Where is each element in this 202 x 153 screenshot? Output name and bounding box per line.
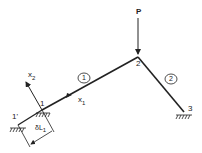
node-label-1: 1 — [40, 100, 44, 108]
node-label-3: 3 — [188, 105, 192, 113]
displacement-label: δL1 — [35, 124, 46, 133]
support-node-1p — [10, 128, 26, 132]
member-2 — [138, 57, 184, 112]
x2-axis-label: x2 — [28, 71, 35, 81]
displaced-member — [18, 110, 42, 125]
node-label-1p: 1' — [12, 113, 18, 121]
support-node-1 — [36, 113, 50, 117]
node-label-2: 2 — [136, 60, 140, 68]
load-label: P — [136, 8, 141, 16]
truss-diagram: P 2 3 1 1' 1 2 x1 x2 δL1 — [0, 0, 202, 153]
x1-axis-label: x1 — [78, 96, 85, 106]
x2-sub: 2 — [32, 75, 35, 81]
x1-sub: 1 — [82, 100, 85, 106]
member-label-1: 1 — [82, 74, 86, 81]
displacement-base: δL — [35, 124, 43, 131]
displacement-sub: 1 — [43, 127, 46, 133]
support-node-3 — [176, 115, 192, 119]
member-label-2: 2 — [169, 75, 173, 82]
member-1 — [42, 57, 138, 110]
